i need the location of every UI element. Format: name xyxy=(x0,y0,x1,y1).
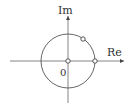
point-on-circle xyxy=(81,37,85,41)
imag-axis-label: Im xyxy=(58,4,73,17)
real-axis-label: Re xyxy=(107,46,122,59)
complex-plane-diagram: Im Re 0 xyxy=(0,0,129,108)
origin-label: 0 xyxy=(60,67,66,78)
origin-point xyxy=(66,59,70,63)
point-one xyxy=(93,59,97,63)
